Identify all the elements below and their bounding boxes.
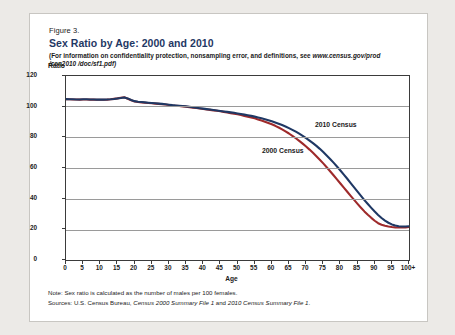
x-tick-mark-5	[82, 261, 83, 264]
y-tick-mark-120	[62, 75, 65, 76]
series-label-2010: 2010 Census	[315, 121, 357, 128]
gridline-20	[66, 230, 409, 231]
figure-notes: Note: Sex ratio is calculated as the num…	[48, 288, 408, 307]
x-tick-mark-100plus	[408, 261, 409, 264]
x-tick-mark-80	[339, 261, 340, 264]
x-axis-title-text: Age	[225, 275, 237, 282]
x-tick-mark-35	[185, 261, 186, 264]
x-tick-mark-30	[168, 261, 169, 264]
x-tick-mark-50	[237, 261, 238, 264]
y-tick-label-80: 80	[0, 132, 37, 139]
x-tick-mark-65	[288, 261, 289, 264]
gridline-100	[66, 106, 409, 107]
x-tick-mark-70	[305, 261, 306, 264]
sources-text: Sources: U.S. Census Bureau, Census 2000…	[48, 298, 408, 308]
sources-end: .	[309, 299, 311, 306]
gridline-60	[66, 168, 409, 169]
x-tick-mark-45	[219, 261, 220, 264]
x-tick-mark-15	[116, 261, 117, 264]
note-text: Note: Sex ratio is calculated as the num…	[48, 288, 408, 298]
x-tick-mark-55	[254, 261, 255, 264]
page-background: Figure 3. Sex Ratio by Age: 2000 and 201…	[0, 0, 455, 335]
sources-mid: and	[214, 299, 228, 306]
x-axis-title: Age	[0, 275, 455, 282]
plot-frame	[65, 75, 410, 261]
y-tick-mark-80	[62, 136, 65, 137]
gridline-80	[66, 137, 409, 138]
y-tick-mark-60	[62, 167, 65, 168]
x-tick-mark-40	[202, 261, 203, 264]
y-tick-label-60: 60	[0, 163, 37, 170]
y-tick-mark-20	[62, 228, 65, 229]
x-tick-mark-95	[391, 261, 392, 264]
y-tick-label-20: 20	[0, 224, 37, 231]
y-tick-label-0: 0	[0, 255, 37, 262]
y-tick-mark-0	[62, 259, 65, 260]
x-tick-mark-25	[151, 261, 152, 264]
y-tick-mark-100	[62, 106, 65, 107]
y-tick-label-100: 100	[0, 102, 37, 109]
x-tick-mark-0	[65, 261, 66, 264]
x-tick-mark-20	[134, 261, 135, 264]
sources-prefix: Sources: U.S. Census Bureau,	[48, 299, 133, 306]
x-tick-label-100plus: 100+	[393, 264, 423, 271]
gridline-40	[66, 199, 409, 200]
sources-file-1: Census 2000 Summary File 1	[133, 299, 214, 306]
sources-file-2: 2010 Census Summary File 1	[228, 299, 309, 306]
x-tick-mark-85	[357, 261, 358, 264]
x-tick-mark-75	[322, 261, 323, 264]
x-tick-mark-60	[271, 261, 272, 264]
y-tick-label-120: 120	[0, 71, 37, 78]
y-tick-label-40: 40	[0, 194, 37, 201]
x-tick-mark-10	[99, 261, 100, 264]
chart-plot-area: 020406080100120 051015202530354045505560…	[0, 0, 455, 335]
y-tick-mark-40	[62, 198, 65, 199]
series-label-2000: 2000 Census	[262, 147, 304, 154]
x-tick-mark-90	[374, 261, 375, 264]
